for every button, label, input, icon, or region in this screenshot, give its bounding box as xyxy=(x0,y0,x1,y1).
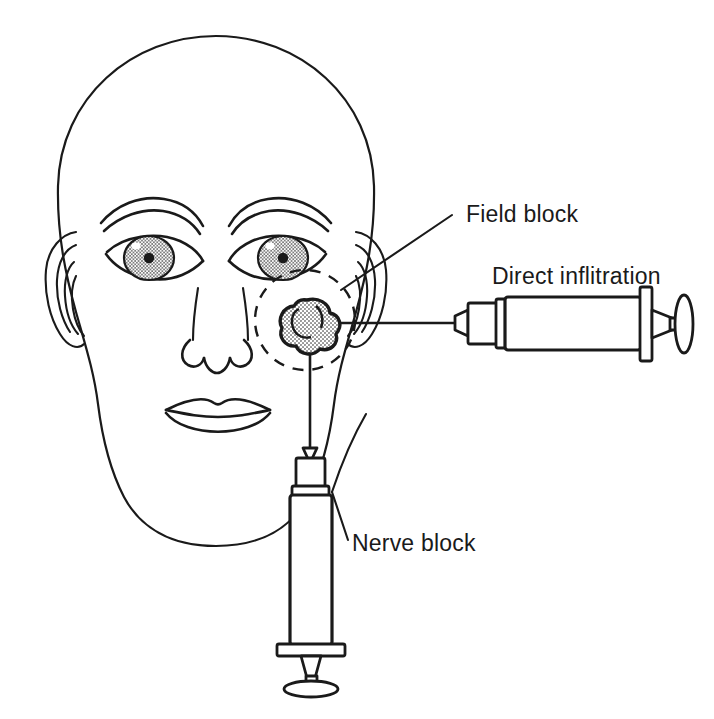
right-nasolabial-fold xyxy=(243,288,248,340)
left-eyebrow-lower xyxy=(104,210,200,234)
left-nasolabial-fold xyxy=(193,288,198,340)
cheek-lines-group xyxy=(193,288,248,340)
left-eye xyxy=(106,236,203,280)
nose xyxy=(182,340,252,373)
right-eye xyxy=(229,236,326,280)
vertical-syringe-thumb-rest xyxy=(284,681,338,697)
label-nerve-block: Nerve block xyxy=(352,530,476,556)
left-ear xyxy=(46,232,84,347)
horizontal-syringe-hub xyxy=(468,303,498,344)
left-eye-glint xyxy=(131,243,140,250)
diagram-root: Field block Direct inflitration Nerve bl… xyxy=(0,0,714,719)
head-outline-group xyxy=(58,36,374,546)
horizontal-syringe-flange xyxy=(640,287,652,361)
right-pupil xyxy=(278,253,288,263)
vertical-syringe-hub xyxy=(296,458,325,488)
cranium-outline xyxy=(58,36,374,546)
vertical-syringe-flange xyxy=(277,644,345,656)
label-field-block: Field block xyxy=(466,201,578,227)
right-eyebrow-lower xyxy=(232,210,328,234)
horizontal-syringe-barrel xyxy=(505,297,641,350)
anaesthesia-techniques-figure: Field block Direct inflitration Nerve bl… xyxy=(0,0,714,719)
horizontal-syringe xyxy=(455,287,693,361)
field-block-leader xyxy=(341,215,452,290)
nerve-block-leader xyxy=(332,492,348,540)
lesion xyxy=(280,299,340,354)
vertical-syringe-barrel xyxy=(290,495,332,645)
horizontal-syringe-needle-cone xyxy=(455,310,468,336)
eyebrows-group xyxy=(101,198,331,234)
left-pupil xyxy=(144,253,154,263)
mouth xyxy=(166,399,270,431)
horizontal-syringe-thumb-rest xyxy=(675,295,693,353)
nerve-block-leader-upper xyxy=(332,414,366,492)
right-eye-glint xyxy=(265,243,274,250)
label-direct-infiltration: Direct inflitration xyxy=(492,263,661,289)
